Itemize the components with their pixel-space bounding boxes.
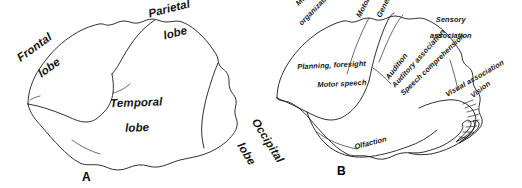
brain-figure: Frontal lobe Parietal lobe Temporal lobe…: [0, 0, 522, 188]
panel-a-lobes: Frontal lobe Parietal lobe Temporal lobe…: [0, 0, 261, 188]
panel-letter-a: A: [82, 170, 91, 184]
panel-letter-b: B: [337, 164, 346, 178]
brain-outline-a: [0, 0, 261, 188]
brain-outline-b: [261, 0, 522, 188]
panel-b-functional-areas: Motor organization Motor General sensati…: [261, 0, 522, 188]
